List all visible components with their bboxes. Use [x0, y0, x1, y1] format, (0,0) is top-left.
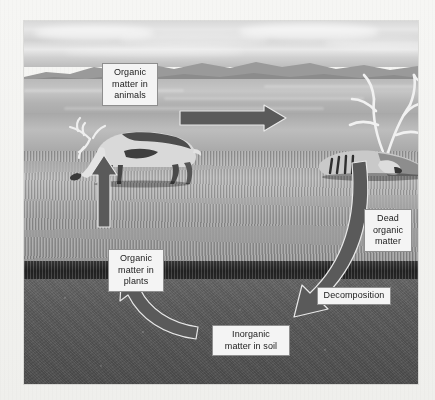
page-background: Organic matter in animals Organic matter…: [0, 0, 435, 400]
label-organic-matter-in-animals: Organic matter in animals: [102, 63, 158, 106]
nutrient-cycle-photo: Organic matter in animals Organic matter…: [24, 21, 418, 384]
dead-caribou-carcass: [316, 63, 418, 185]
soil-speck: [324, 349, 326, 351]
soil-speck: [100, 365, 102, 367]
label-inorganic-matter-in-soil: Inorganic matter in soil: [212, 325, 290, 356]
cloud: [64, 47, 244, 57]
label-organic-matter-in-plants: Organic matter in plants: [108, 249, 164, 292]
label-decomposition: Decomposition: [317, 287, 391, 305]
soil-speck: [239, 309, 241, 311]
grazing-caribou: [60, 105, 215, 187]
cloud: [324, 37, 418, 49]
soil-speck: [64, 297, 66, 299]
label-dead-organic-matter: Dead organic matter: [364, 209, 412, 252]
soil-speck: [142, 331, 144, 333]
